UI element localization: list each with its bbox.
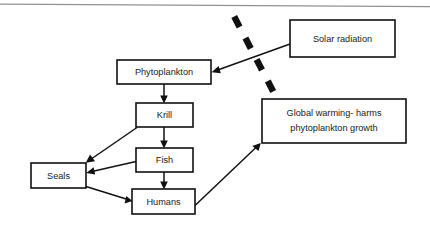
node-label-phytoplankton: Phytoplankton xyxy=(135,67,193,77)
node-label-solar-radiation: Solar radiation xyxy=(313,34,372,44)
top-divider-rule xyxy=(0,4,430,6)
node-fish[interactable]: Fish xyxy=(136,148,193,172)
edge-seals-to-humans xyxy=(86,187,133,204)
node-krill[interactable]: Krill xyxy=(136,103,193,127)
node-phytoplankton[interactable]: Phytoplankton xyxy=(117,60,211,84)
edge-humans-to-global-warming xyxy=(195,143,261,206)
food-chain-diagram: Phytoplankton Krill Fish Seals Humans So… xyxy=(0,0,430,236)
node-humans[interactable]: Humans xyxy=(132,189,195,214)
node-seals[interactable]: Seals xyxy=(31,163,86,188)
edge-krill-to-fish xyxy=(160,127,168,149)
node-label-seals: Seals xyxy=(47,171,70,181)
edge-fish-to-humans xyxy=(160,172,168,190)
node-label-humans: Humans xyxy=(146,197,181,207)
node-label-fish: Fish xyxy=(156,155,173,165)
node-global-warming[interactable]: Global warming- harms phytoplankton grow… xyxy=(262,99,406,143)
node-solar-radiation[interactable]: Solar radiation xyxy=(290,20,395,57)
edge-phytoplankton-to-krill xyxy=(160,84,168,104)
diagram-canvas: Phytoplankton Krill Fish Seals Humans So… xyxy=(0,0,430,236)
node-label-krill: Krill xyxy=(157,110,172,120)
dashed-barrier xyxy=(234,17,273,92)
node-label-global-warming-line1: Global warming- harms xyxy=(287,108,382,118)
edge-fish-to-seals xyxy=(86,162,136,175)
edge-krill-to-seals xyxy=(86,128,137,163)
node-label-global-warming-line2: phytoplankton growth xyxy=(290,123,377,133)
